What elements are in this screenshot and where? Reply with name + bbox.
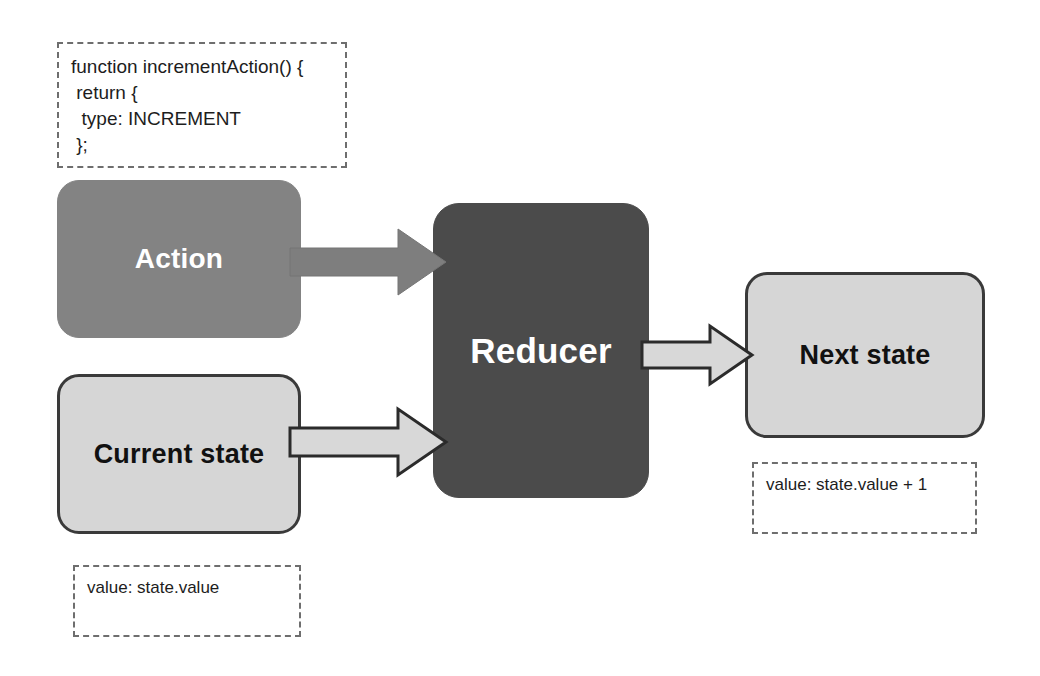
next-state-note: value: state.value + 1 bbox=[752, 462, 977, 534]
arrow-action-to-reducer bbox=[290, 227, 450, 299]
next-state-note-text: value: state.value + 1 bbox=[766, 474, 963, 496]
arrow-reducer-to-next-state bbox=[642, 324, 754, 386]
node-current-state-label: Current state bbox=[94, 439, 265, 470]
arrow-current-state-to-reducer bbox=[290, 407, 450, 479]
node-current-state[interactable]: Current state bbox=[57, 374, 301, 534]
node-reducer-label: Reducer bbox=[470, 331, 611, 371]
node-next-state-label: Next state bbox=[799, 340, 930, 371]
node-action[interactable]: Action bbox=[57, 180, 301, 338]
node-action-label: Action bbox=[135, 243, 223, 275]
action-code-text: function incrementAction() { return { ty… bbox=[71, 54, 333, 158]
diagram-canvas: function incrementAction() { return { ty… bbox=[0, 0, 1040, 676]
node-reducer[interactable]: Reducer bbox=[433, 203, 649, 498]
current-state-note-text: value: state.value bbox=[87, 577, 287, 599]
action-code-note: function incrementAction() { return { ty… bbox=[57, 42, 347, 168]
node-next-state[interactable]: Next state bbox=[745, 272, 985, 438]
current-state-note: value: state.value bbox=[73, 565, 301, 637]
